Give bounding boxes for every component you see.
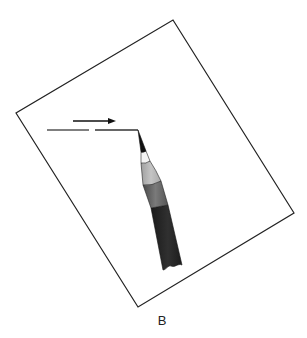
diagram-canvas [0,0,307,338]
figure-label: B [155,313,169,328]
paper-sheet [16,20,294,307]
